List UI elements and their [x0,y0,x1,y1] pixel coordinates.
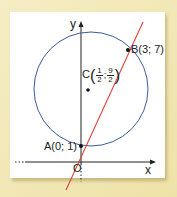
close-paren: ) [115,67,120,84]
open-paren: ( [90,67,95,84]
origin-label: O [73,163,82,174]
center-x-fraction: 12 [96,67,102,84]
x-axis-label: x [145,164,151,176]
point-B [126,48,130,52]
center-x-denominator: 2 [97,76,101,84]
center-y-denominator: 2 [108,76,112,84]
point-B-label: B(3; 7) [131,44,164,55]
y-axis-label: y [70,18,76,30]
point-A [79,144,83,148]
center-name: C [82,68,90,80]
y-axis-arrow-icon [79,21,84,27]
center-y-fraction: 92 [107,67,113,84]
point-A-label: A(0; 1) [44,141,77,152]
point-C-label: C(12;92) [82,67,120,84]
center-separator: ; [104,70,107,80]
point-C [86,88,90,92]
